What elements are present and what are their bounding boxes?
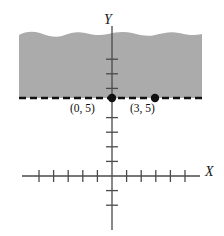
point-marker-3-5 xyxy=(151,94,159,102)
coordinate-plane-svg xyxy=(0,0,224,236)
y-axis-label: Y xyxy=(104,13,112,27)
point-label-0-5: (0, 5) xyxy=(70,103,95,115)
x-axis-label: X xyxy=(205,165,214,179)
graph-figure: Y X (0, 5) (3, 5) xyxy=(0,0,224,236)
point-marker-0-5 xyxy=(108,94,116,102)
point-label-3-5: (3, 5) xyxy=(130,103,155,115)
